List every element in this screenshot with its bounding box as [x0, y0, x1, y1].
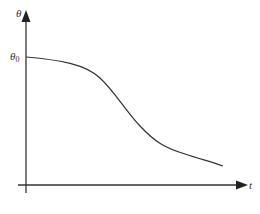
theta0-label: θ0: [10, 51, 19, 64]
theta-vs-time-diagram: [0, 0, 260, 214]
theta0-subscript: 0: [15, 55, 19, 64]
theta-curve: [26, 57, 223, 166]
x-axis-label: t: [249, 180, 252, 191]
x-axis-arrowhead-icon: [236, 181, 248, 190]
y-axis-arrowhead-icon: [22, 10, 31, 22]
y-axis-label: θ: [16, 8, 21, 19]
